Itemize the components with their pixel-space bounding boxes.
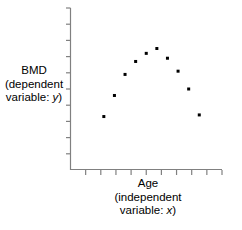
data-point: [166, 57, 169, 60]
data-point: [177, 70, 180, 73]
x-axis-label-line3: variable: x): [72, 204, 224, 218]
x-axis-label-line3-suffix: ): [172, 204, 176, 216]
x-axis-label-line1: Age: [72, 177, 224, 191]
data-point-series: [102, 47, 200, 118]
data-point: [102, 115, 105, 118]
data-point: [124, 73, 127, 76]
y-axis-label-line3-suffix: ): [58, 91, 62, 103]
y-axis-label-line2: (dependent: [0, 78, 68, 92]
axes: [70, 8, 222, 170]
x-axis-label-line3-prefix: variable:: [120, 204, 167, 216]
data-point: [145, 52, 148, 55]
data-point: [113, 94, 116, 97]
y-axis-label-line1: BMD: [0, 64, 68, 78]
y-axis-label: BMD (dependent variable: y): [0, 64, 68, 105]
x-axis-ticks: [86, 170, 222, 175]
data-point: [187, 88, 190, 91]
data-point: [134, 60, 137, 63]
x-axis-label-line2: (independent: [72, 191, 224, 205]
scatter-plot-figure: BMD (dependent variable: y) Age (indepen…: [0, 0, 242, 230]
x-axis-label: Age (independent variable: x): [72, 177, 224, 218]
y-axis-label-line3-prefix: variable:: [6, 91, 53, 103]
data-point: [155, 47, 158, 50]
y-axis-label-line3: variable: y): [0, 91, 68, 105]
data-point: [198, 113, 201, 116]
